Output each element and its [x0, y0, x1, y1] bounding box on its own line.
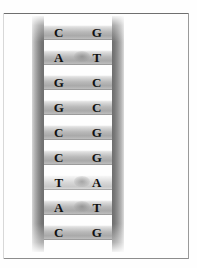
dna-ladder-figure: C G A T G C G C C G C G: [0, 0, 197, 268]
base-pair-rungs: C G A T G C G C C G C G: [44, 16, 112, 252]
dna-ladder: C G A T G C G C C G C G: [32, 16, 124, 252]
frame-right-border: [188, 13, 189, 259]
base-left: A: [44, 200, 78, 215]
base-right: G: [78, 150, 112, 165]
base-right: A: [78, 175, 112, 190]
base-left: G: [44, 100, 78, 115]
base-pair-row: C G: [44, 25, 112, 40]
base-left: C: [44, 25, 78, 40]
base-pair-row: G C: [44, 75, 112, 90]
dna-backbone-left-rail: [32, 16, 44, 252]
frame-bottom-border: [3, 258, 189, 259]
base-pair-row: A T: [44, 200, 112, 215]
base-right: G: [78, 225, 112, 240]
base-left: C: [44, 225, 78, 240]
base-pair-row: C G: [44, 225, 112, 240]
base-pair-row: C G: [44, 125, 112, 140]
base-pair-row: G C: [44, 100, 112, 115]
frame-top-border: [3, 13, 189, 14]
frame-left-border: [3, 13, 4, 259]
base-right: T: [78, 200, 112, 215]
dna-backbone-right-rail: [112, 16, 124, 252]
base-left: A: [44, 50, 78, 65]
base-pair-row: T A: [44, 175, 112, 190]
base-right: G: [78, 125, 112, 140]
base-right: C: [78, 100, 112, 115]
base-left: C: [44, 125, 78, 140]
base-left: T: [44, 175, 78, 190]
base-right: T: [78, 50, 112, 65]
base-right: G: [78, 25, 112, 40]
base-pair-row: C G: [44, 150, 112, 165]
base-left: G: [44, 75, 78, 90]
base-pair-row: A T: [44, 50, 112, 65]
base-left: C: [44, 150, 78, 165]
base-right: C: [78, 75, 112, 90]
